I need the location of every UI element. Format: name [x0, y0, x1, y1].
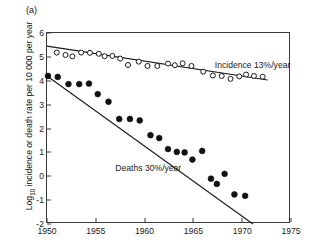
y-tick-label: 5 — [39, 53, 44, 62]
data-point-deaths — [174, 149, 180, 155]
data-point-deaths — [45, 73, 51, 79]
plot-area: -2-10123456195019551960196519701975 Inci… — [46, 32, 290, 223]
data-point-incidence — [136, 59, 141, 64]
x-tick-label: 1960 — [135, 227, 154, 236]
data-point-incidence — [126, 62, 131, 67]
y-axis-label: Log10 incidence or death rate per 10 000… — [24, 16, 36, 216]
data-point-deaths — [182, 149, 188, 155]
x-tick-label: 1955 — [86, 227, 105, 236]
data-point-incidence — [172, 63, 177, 68]
data-point-deaths — [231, 191, 237, 197]
data-point-deaths — [165, 146, 171, 152]
series-annotation-incidence: Incidence 13%/year — [215, 60, 290, 70]
data-point-incidence — [166, 61, 171, 66]
data-point-deaths — [116, 116, 122, 122]
data-point-deaths — [137, 117, 143, 123]
x-tick-label: 1970 — [233, 227, 252, 236]
data-point-deaths — [242, 193, 248, 199]
data-point-incidence — [228, 76, 233, 81]
data-point-incidence — [102, 54, 107, 59]
data-point-deaths — [199, 148, 205, 154]
x-tick-label: 1975 — [281, 227, 300, 236]
data-point-incidence — [54, 50, 59, 55]
data-point-deaths — [55, 74, 61, 80]
x-tick-label: 1965 — [184, 227, 203, 236]
y-tick-label: 6 — [39, 29, 44, 38]
data-point-deaths — [222, 171, 228, 177]
data-point-deaths — [127, 116, 133, 122]
data-point-deaths — [156, 135, 162, 141]
data-point-deaths — [66, 81, 72, 87]
x-tick-label: 1950 — [37, 227, 56, 236]
data-point-deaths — [190, 157, 196, 163]
data-point-deaths — [76, 81, 82, 87]
y-tick-label: 1 — [39, 148, 44, 157]
data-point-incidence — [87, 50, 92, 55]
data-point-deaths — [95, 91, 101, 97]
data-point-incidence — [189, 63, 194, 68]
data-point-incidence — [210, 73, 215, 78]
data-point-incidence — [63, 52, 68, 57]
data-point-incidence — [70, 54, 75, 59]
data-point-incidence — [251, 73, 256, 78]
data-point-incidence — [201, 69, 206, 74]
data-point-incidence — [155, 63, 160, 68]
data-markers — [45, 50, 265, 199]
data-point-incidence — [118, 56, 123, 61]
data-point-incidence — [180, 61, 185, 66]
data-point-deaths — [208, 176, 214, 182]
data-point-incidence — [260, 74, 265, 79]
data-point-incidence — [219, 73, 224, 78]
data-point-incidence — [244, 72, 249, 77]
panel-label: (a) — [26, 5, 37, 15]
data-point-deaths — [86, 81, 92, 87]
y-axis-label-pre: Log — [24, 196, 34, 210]
y-tick-label: 0 — [39, 172, 44, 181]
data-point-incidence — [110, 53, 115, 58]
figure-panel: (a) Log10 incidence or death rate per 10… — [0, 0, 311, 252]
data-point-incidence — [237, 74, 242, 79]
data-point-deaths — [214, 181, 220, 187]
y-tick-label: 4 — [39, 76, 44, 85]
data-point-incidence — [79, 50, 84, 55]
y-tick-label: 3 — [39, 100, 44, 109]
data-point-incidence — [145, 63, 150, 68]
y-tick-label: 2 — [39, 124, 44, 133]
y-axis-label-subscript: 10 — [29, 189, 36, 196]
data-point-deaths — [148, 132, 154, 138]
series-annotation-deaths: Deaths 30%/year — [115, 163, 181, 173]
data-point-incidence — [96, 51, 101, 56]
y-tick-label: -1 — [36, 196, 44, 205]
data-point-deaths — [106, 99, 112, 105]
y-axis-label-post: incidence or death rate per 10 000 per y… — [24, 22, 34, 189]
trend-line-deaths — [47, 76, 253, 224]
